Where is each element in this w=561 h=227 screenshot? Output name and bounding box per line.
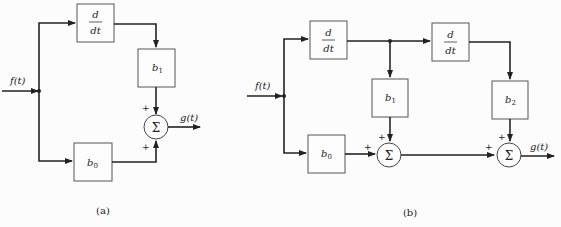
- output-label-a: g(t): [180, 112, 198, 123]
- plus-sign-top-b1: +: [378, 132, 386, 142]
- plus-sign-left-b2: +: [485, 142, 493, 152]
- diff-denominator: dt: [90, 25, 101, 36]
- diff2-numerator: d: [447, 29, 453, 40]
- input-label-a: f(t): [9, 75, 26, 86]
- plus-sign-top-b2: +: [498, 132, 506, 142]
- wire-to-b0-a: [39, 91, 72, 161]
- sigma-symbol-b1: Σ: [385, 149, 393, 163]
- wire-to-diff-a: [39, 23, 75, 91]
- diff1-denominator: dt: [323, 43, 334, 54]
- diff2-denominator: dt: [445, 45, 456, 56]
- diagram-a: f(t) d dt b1 Σ + + g(t) b0 (a): [2, 4, 200, 216]
- caption-a: (a): [96, 205, 110, 216]
- output-label-b: g(t): [530, 141, 548, 152]
- sigma-symbol-a: Σ: [152, 121, 160, 135]
- wire-diff-to-b1-a: [114, 24, 156, 47]
- plus-sign-left-b1: +: [364, 142, 372, 152]
- diff1-numerator: d: [325, 27, 331, 38]
- diff-numerator: d: [92, 9, 98, 20]
- wire-to-b0-b: [284, 96, 306, 153]
- input-label-b: f(t): [254, 80, 271, 91]
- plus-sign-top-a: +: [142, 103, 150, 113]
- caption-b: (b): [403, 207, 417, 218]
- block-diagrams: f(t) d dt b1 Σ + + g(t) b0 (a) f(t) d dt: [0, 0, 561, 227]
- sigma-symbol-b2: Σ: [505, 149, 513, 163]
- wire-diff2-to-b2-b: [469, 42, 510, 79]
- wire-to-diff1-b: [284, 39, 308, 96]
- diagram-b: f(t) d dt d dt b1 b2 b0 Σ + + Σ: [247, 21, 554, 218]
- plus-sign-bottom-a: +: [142, 142, 150, 152]
